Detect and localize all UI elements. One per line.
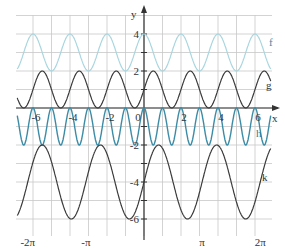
- tick-label: 2π: [255, 236, 267, 248]
- tick-label: 2: [134, 65, 140, 77]
- tick-label: -4: [68, 111, 78, 123]
- tick-label: -2: [105, 111, 114, 123]
- tick-label: -6: [130, 213, 140, 225]
- tick-label: -π: [81, 236, 91, 248]
- tick-label: -4: [130, 176, 140, 188]
- tick-label: -6: [31, 111, 41, 123]
- curve-label-f: f: [269, 36, 273, 48]
- curve-label-h: h: [256, 127, 262, 139]
- tick-label: π: [199, 236, 205, 248]
- tick-label: -2: [130, 139, 139, 151]
- tick-label: 4: [134, 28, 140, 40]
- tick-label: 0: [135, 111, 141, 123]
- curve-label-g: g: [266, 79, 272, 91]
- tick-label: 4: [218, 111, 224, 123]
- x-axis-label: x: [272, 112, 278, 124]
- y-axis-label: y: [131, 8, 137, 20]
- curve-label-k: k: [262, 171, 268, 183]
- tick-label: -2π: [20, 236, 35, 248]
- tick-label: 2: [181, 111, 187, 123]
- function-graph: -6-4-20246-2π-ππ2π42-2-4-6 y x f g h k: [0, 0, 285, 248]
- tick-label: 6: [255, 111, 261, 123]
